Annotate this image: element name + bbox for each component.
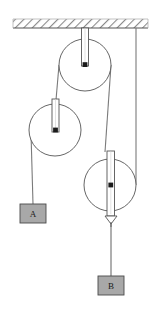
block-a-label: A bbox=[30, 209, 37, 219]
pulley-right bbox=[84, 151, 136, 216]
pulley-top bbox=[59, 28, 111, 91]
block-b[interactable]: B bbox=[98, 276, 124, 295]
pulley-axle bbox=[83, 62, 88, 67]
pulley-diagram-canvas: A B bbox=[0, 0, 157, 315]
pulley-system-diagram: A B bbox=[0, 0, 157, 315]
hook-arrow bbox=[105, 216, 117, 227]
pulley-axle bbox=[53, 128, 58, 133]
pulley-left bbox=[29, 99, 81, 156]
block-b-label: B bbox=[108, 281, 114, 291]
rope-top-left-to-left-pulley bbox=[56, 65, 59, 100]
block-a[interactable]: A bbox=[20, 204, 46, 223]
ceiling-support bbox=[13, 19, 148, 28]
ceiling-hatch-fill bbox=[13, 19, 148, 28]
pulley-axle bbox=[108, 183, 113, 188]
rope-segment bbox=[56, 65, 59, 100]
